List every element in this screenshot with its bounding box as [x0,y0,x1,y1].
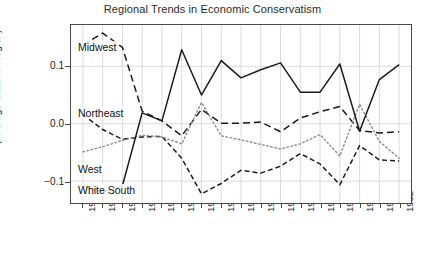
x-tick-mark [161,204,162,208]
x-tick-mark [380,204,381,208]
x-tick-mark [142,204,143,208]
x-tick-mark [221,204,222,208]
y-tick-label: 0.0 [20,118,64,129]
x-tick-mark [321,204,322,208]
series-label-west: West [77,163,103,175]
series-label-white-south: White South [77,184,136,196]
chart-title: Regional Trends in Economic Conservatism [0,3,425,15]
x-tick-mark [102,204,103,208]
x-tick-mark [400,204,401,208]
x-tick-mark [261,204,262,208]
x-tick-mark [340,204,341,208]
y-tick-label: −0.1 [20,176,64,187]
inline-series-labels: MidwestNortheastWestWhite South [71,25,411,203]
x-tick-mark [241,204,242,208]
x-tick-mark [122,204,123,208]
chart-container: Regional Trends in Economic Conservatism… [0,0,425,269]
x-tick-mark [360,204,361,208]
y-axis-title-line2: (Average State in Region) [0,0,3,177]
x-tick-mark [181,204,182,208]
y-axis-title: Relative Economic Conservatism (Average … [0,0,5,177]
plot-area: MidwestNortheastWestWhite South [70,24,412,204]
x-tick-mark [301,204,302,208]
x-tick-mark [281,204,282,208]
y-tick-label: 0.1 [20,60,64,71]
x-tick-mark [82,204,83,208]
series-label-midwest: Midwest [77,41,118,53]
x-tick-mark [201,204,202,208]
series-label-northeast: Northeast [77,107,125,119]
